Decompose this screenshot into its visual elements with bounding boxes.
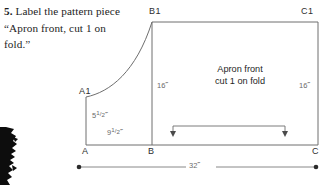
corner-label-c1: C1 xyxy=(301,7,313,16)
corner-label-c: C xyxy=(312,147,319,156)
piece-label: Apron front cut 1 on fold xyxy=(196,64,284,87)
dimension-short-height: 51/2˝ xyxy=(92,111,108,119)
dimension-short-width-unit: ˝ xyxy=(120,128,123,137)
dimension-short-height-numerator: 1 xyxy=(96,109,99,116)
piece-label-line1: Apron front xyxy=(196,64,284,76)
dimension-short-height-unit: ˝ xyxy=(105,111,108,120)
figure-page: 5. Label the pattern piece “Apron front,… xyxy=(0,0,333,185)
corner-label-b: B xyxy=(148,147,154,156)
corner-label-a1: A1 xyxy=(79,87,91,96)
dimension-short-width-numerator: 1 xyxy=(111,126,114,133)
photo-edge-blob xyxy=(0,127,24,185)
dimension-short-width: 91/2˝ xyxy=(107,128,123,136)
curve-a1-to-b1 xyxy=(86,22,152,97)
left-section-outline xyxy=(86,97,152,145)
dimension-right-height: 16˝ xyxy=(299,82,310,90)
interior-arrow-bracket xyxy=(170,126,288,137)
corner-label-a: A xyxy=(82,147,88,156)
dimension-short-height-denominator: 2 xyxy=(102,111,105,118)
piece-label-line2: cut 1 on fold xyxy=(196,76,284,88)
dimension-left-height: 16˝ xyxy=(157,82,168,90)
dimension-baseline-width: 32˝ xyxy=(189,162,200,170)
corner-label-b1: B1 xyxy=(149,7,161,16)
photo-blob-shape xyxy=(0,127,24,185)
pattern-piece-diagram xyxy=(0,0,333,185)
dimension-short-width-denominator: 2 xyxy=(117,128,120,135)
